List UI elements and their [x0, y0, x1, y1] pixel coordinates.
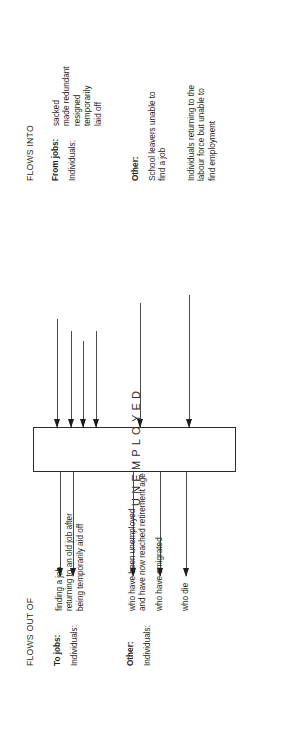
list-item: being temporarily aid off [76, 513, 86, 611]
flows-out-heading: FLOWS OUT OF [25, 598, 35, 666]
list-item: who die [181, 473, 191, 611]
spacer [169, 85, 187, 181]
flows-into-group-label-other: Other: [131, 156, 141, 181]
flow-in-arrow-other-1 [140, 303, 141, 427]
flows-into-actor-from-jobs: Individuals: [68, 140, 78, 181]
arrowhead-icon [93, 419, 99, 428]
flow-in-arrow-other-2 [189, 295, 190, 427]
arrowhead-icon [68, 419, 74, 428]
list-item: finding a job [55, 513, 65, 611]
list-item: labour force but unable to [197, 85, 207, 181]
list-item: who have emigrated [155, 473, 165, 611]
flow-in-arrow-from-jobs-2 [71, 331, 72, 427]
unemployment-flow-diagram: UNEMPLOYED FLOWS OUT OF To jobs: Individ… [0, 0, 281, 736]
flows-into-heading: FLOWS INTO [25, 125, 35, 181]
list-item: made redundant [62, 66, 72, 126]
list-item: who have been unemployed [128, 473, 138, 611]
list-item: resigned [73, 66, 83, 126]
flows-out-items-other: who have been unemployed and have now re… [128, 473, 192, 611]
list-item: and have now reached retirement age [138, 473, 148, 611]
list-item: Individuals returning to the [187, 85, 197, 181]
list-item: sacked [52, 66, 62, 126]
flows-out-items-to-jobs: finding a job returning to an old job af… [55, 513, 86, 611]
spacer [165, 473, 181, 611]
arrowhead-icon [186, 419, 192, 428]
list-item: laid off [94, 66, 104, 126]
list-item: find employment [208, 85, 218, 181]
flow-in-arrow-from-jobs-4 [96, 331, 97, 427]
flow-in-arrow-from-jobs-3 [83, 341, 84, 427]
list-item: returning to an old job after [65, 513, 75, 611]
arrowhead-icon [137, 419, 143, 428]
flows-out-group-label-to-jobs: To jobs: [53, 635, 63, 666]
flows-out-actor-other: Individuals: [143, 625, 153, 666]
flow-in-arrow-from-jobs-1 [57, 319, 58, 427]
flows-out-group-label-other: Other: [126, 641, 136, 666]
arrowhead-icon [54, 419, 60, 428]
flows-into-group-label-from-jobs: From jobs: [51, 139, 61, 181]
flows-into-items-from-jobs: sacked made redundant resigned temporari… [52, 66, 104, 126]
list-item: find a job [158, 85, 168, 181]
flows-out-actor-to-jobs: Individuals: [70, 625, 80, 666]
flows-into-items-other: School leavers unable to find a job Indi… [148, 85, 218, 181]
list-item: temporarily [83, 66, 93, 126]
unemployed-box: UNEMPLOYED [33, 427, 236, 472]
rotated-figure-wrapper: UNEMPLOYED FLOWS OUT OF To jobs: Individ… [0, 0, 281, 736]
list-item: School leavers unable to [148, 85, 158, 181]
unemployed-box-label: UNEMPLOYED [34, 426, 237, 471]
arrowhead-icon [80, 419, 86, 428]
